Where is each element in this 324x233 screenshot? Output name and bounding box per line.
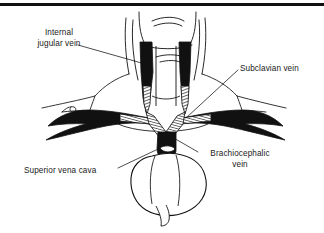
- right-subclavian-vein: [181, 110, 285, 140]
- left-subclavian-vein: [46, 110, 150, 140]
- label-subclavian-vein: Subclavian vein: [240, 64, 320, 75]
- left-internal-jugular-vein-hatched: [143, 86, 151, 114]
- label-superior-vena-cava: Superior vena cava: [24, 166, 128, 177]
- label-brachiocephalic-vein: Brachiocephalic vein: [200, 149, 280, 170]
- internal-jugular-veins: [140, 42, 191, 114]
- right-internal-jugular-vein-hatched: [181, 86, 189, 114]
- anatomy-figure: Internal jugular vein Subclavian vein Br…: [0, 0, 324, 233]
- label-internal-jugular-vein: Internal jugular vein: [22, 28, 96, 49]
- heart-outline: [131, 153, 206, 226]
